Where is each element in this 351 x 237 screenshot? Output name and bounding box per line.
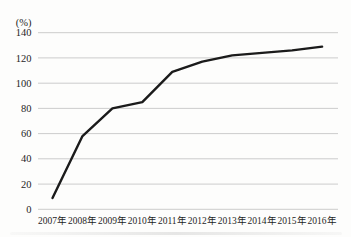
x-tick-label-2: 2008年 xyxy=(68,215,97,226)
x-tick-label-3: 2009年 xyxy=(98,215,127,226)
x-tick-label-5: 2011年 xyxy=(158,215,187,226)
x-tick-label-7: 2013年 xyxy=(218,215,247,226)
x-tick-label-4: 2010年 xyxy=(128,215,157,226)
x-tick-label-8: 2014年 xyxy=(248,215,277,226)
line-chart: 020406080100120140(%)2007年2008年2009年2010… xyxy=(0,0,351,237)
line-chart-canvas: 020406080100120140(%)2007年2008年2009年2010… xyxy=(0,0,351,237)
y-axis-unit-label: (%) xyxy=(16,17,32,29)
y-tick-label-20: 20 xyxy=(21,179,32,190)
chart-background xyxy=(0,0,351,237)
x-tick-label-9: 2015年 xyxy=(278,215,307,226)
x-tick-label-1: 2007年 xyxy=(38,215,67,226)
x-tick-label-10: 2016年 xyxy=(308,215,337,226)
y-tick-label-140: 140 xyxy=(16,27,32,38)
y-tick-label-120: 120 xyxy=(16,53,32,64)
y-tick-label-80: 80 xyxy=(21,103,32,114)
x-axis-labels: 2007年2008年2009年2010年2011年2012年2013年2014年… xyxy=(38,215,337,226)
y-tick-label-60: 60 xyxy=(21,128,32,139)
y-tick-label-40: 40 xyxy=(21,153,32,164)
y-tick-label-0: 0 xyxy=(26,204,31,215)
y-tick-label-100: 100 xyxy=(16,78,32,89)
x-tick-label-6: 2012年 xyxy=(188,215,217,226)
